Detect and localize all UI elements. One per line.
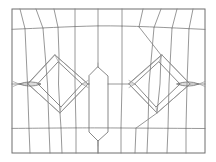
mesh-canvas: [0, 0, 216, 162]
mesh-figure: [0, 0, 216, 162]
